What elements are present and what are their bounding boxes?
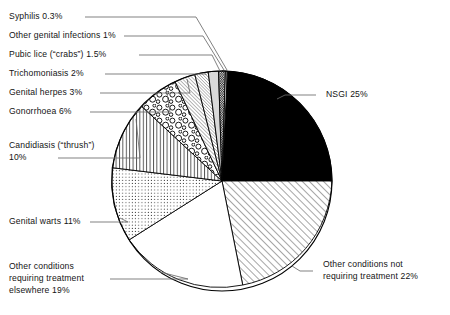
callout-other-requiring-line3: elsewhere 19% bbox=[9, 285, 70, 297]
callout-trichomoniasis: Trichomoniasis 2% bbox=[9, 68, 84, 80]
leader-syphilis bbox=[85, 17, 227, 70]
leader-pubic-lice bbox=[139, 55, 220, 71]
callout-gonorrhoea: Gonorrhoea 6% bbox=[9, 106, 72, 118]
pie-chart-figure: Syphilis 0.3% Other genital infections 1… bbox=[0, 0, 450, 315]
callout-candidiasis-line2: 10% bbox=[9, 152, 27, 164]
callout-nsgi: NSGI 25% bbox=[326, 89, 368, 101]
callout-other-requiring-line1: Other conditions bbox=[9, 261, 74, 273]
callout-other-not-requiring-line2: requiring treatment 22% bbox=[323, 271, 418, 283]
slice-nsgi[interactable] bbox=[222, 71, 332, 181]
leader-other-genital-infections bbox=[124, 36, 224, 70]
callout-candidiasis-line1: Candidiasis (“thrush”) bbox=[9, 140, 94, 152]
callout-syphilis: Syphilis 0.3% bbox=[9, 11, 63, 23]
callout-genital-warts: Genital warts 11% bbox=[9, 216, 81, 228]
leader-trichomoniasis bbox=[105, 74, 206, 75]
callout-genital-herpes: Genital herpes 3% bbox=[9, 87, 82, 99]
callout-other-genital-infections: Other genital infections 1% bbox=[9, 30, 116, 42]
pie-slices bbox=[111, 71, 332, 291]
callout-other-requiring-line2: requiring treatment bbox=[9, 273, 84, 285]
callout-other-not-requiring-line1: Other conditions not bbox=[323, 259, 403, 271]
leader-other-not-requiring bbox=[292, 266, 313, 271]
callout-pubic-lice: Pubic lice (“crabs”) 1.5% bbox=[9, 49, 106, 61]
